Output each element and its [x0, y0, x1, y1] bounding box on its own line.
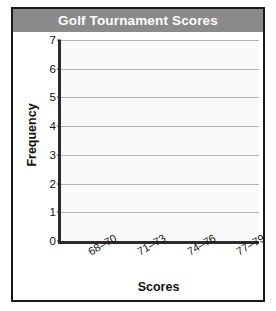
- y-tick-label: 6: [50, 63, 56, 75]
- gridline: [61, 184, 259, 185]
- y-tick-label: 7: [50, 34, 56, 46]
- y-tick-mark: [57, 241, 61, 242]
- gridline: [61, 69, 259, 70]
- y-tick-label: 2: [50, 178, 56, 190]
- plot-area: 0123456768–7071–7374–7677–79: [58, 40, 259, 244]
- y-tick-label: 1: [50, 206, 56, 218]
- chart-title-banner: Golf Tournament Scores: [13, 9, 263, 32]
- x-axis-title: Scores: [58, 280, 259, 294]
- gridline: [61, 212, 259, 213]
- y-tick-label: 3: [50, 149, 56, 161]
- y-tick-label: 4: [50, 120, 56, 132]
- y-tick-label: 0: [50, 235, 56, 247]
- y-tick-mark: [57, 212, 61, 213]
- y-tick-mark: [57, 183, 61, 184]
- y-tick-mark: [57, 68, 61, 69]
- y-tick-mark: [57, 97, 61, 98]
- chart-frame: Golf Tournament Scores Frequency 0123456…: [11, 7, 265, 302]
- x-tick-label: 68–70: [86, 232, 118, 258]
- gridline: [61, 126, 259, 127]
- plot-wrapper: Frequency 0123456768–7071–7374–7677–79 S…: [13, 32, 263, 302]
- gridline: [61, 155, 259, 156]
- gridline: [61, 40, 259, 41]
- y-tick-mark: [57, 126, 61, 127]
- y-tick-mark: [57, 154, 61, 155]
- x-tick-label: 74–76: [185, 232, 217, 258]
- chart-title: Golf Tournament Scores: [58, 13, 218, 28]
- x-tick-label: 77–79: [234, 232, 266, 258]
- x-tick-label: 71–73: [135, 232, 167, 258]
- y-tick-mark: [57, 40, 61, 41]
- y-axis-title: Frequency: [25, 80, 39, 190]
- gridline: [61, 97, 259, 98]
- y-tick-label: 5: [50, 91, 56, 103]
